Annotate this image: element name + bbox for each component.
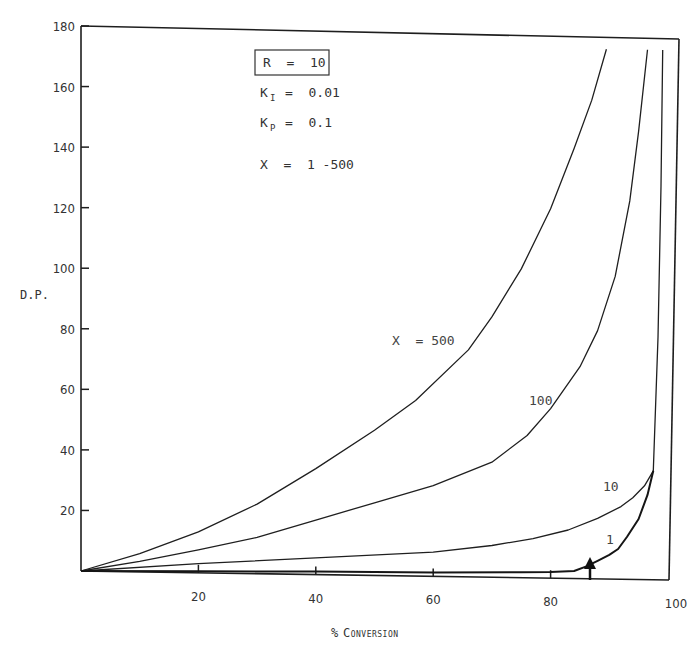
y-axis-ticks: 20406080100120140160180: [53, 19, 89, 518]
curve-x-100: [81, 50, 648, 571]
y-tick-label: 80: [60, 322, 75, 337]
y-tick-label: 20: [60, 503, 75, 518]
y-tick-label: 120: [53, 201, 75, 216]
x-tick-label: 80: [543, 594, 558, 609]
label-x500: X = 500: [392, 333, 455, 348]
x-range-parameter: X = 1 -500: [260, 157, 354, 172]
curve-x-10: [81, 50, 663, 571]
kp-parameter-symbol: K: [260, 115, 268, 130]
x-tick-label: 60: [426, 592, 441, 607]
label-x10: 10: [603, 479, 619, 494]
y-tick-label: 60: [60, 382, 75, 397]
label-x100: 100: [529, 393, 552, 408]
y-tick-label: 180: [53, 19, 75, 34]
ki-parameter-subscript: I: [270, 93, 275, 103]
r-parameter: R = 10: [263, 55, 326, 70]
kp-parameter-subscript: P: [270, 123, 276, 133]
x-axis-title: Conversion: [343, 626, 399, 640]
right-border: [669, 39, 679, 580]
dp-vs-conversion-chart: 20406080100120140160180 20406080100 R = …: [0, 0, 697, 656]
ki-parameter-symbol: K: [260, 85, 268, 100]
x-tick-label: 40: [308, 591, 323, 606]
y-tick-label: 140: [53, 140, 75, 155]
top-border: [81, 26, 679, 39]
y-tick-label: 40: [60, 443, 75, 458]
arrow-up-icon: [584, 557, 596, 580]
label-x1: 1: [606, 532, 614, 547]
y-tick-label: 100: [53, 261, 75, 276]
curve-x-1: [81, 471, 653, 573]
y-tick-label: 160: [53, 80, 75, 95]
plot-frame: [81, 26, 679, 580]
x-tick-label: 20: [191, 589, 206, 604]
parameter-annotation: R = 10 K I = 0.01 K P = 0.1 X = 1 -500: [255, 50, 354, 172]
curve-x-500: [81, 49, 606, 571]
x-axis-title-prefix: %: [331, 626, 339, 640]
series-curves: [81, 49, 663, 572]
x-tick-label: 100: [665, 596, 687, 611]
y-axis-title: D.P.: [20, 288, 49, 302]
ki-parameter-value: = 0.01: [285, 85, 340, 100]
kp-parameter-value: = 0.1: [285, 115, 332, 130]
